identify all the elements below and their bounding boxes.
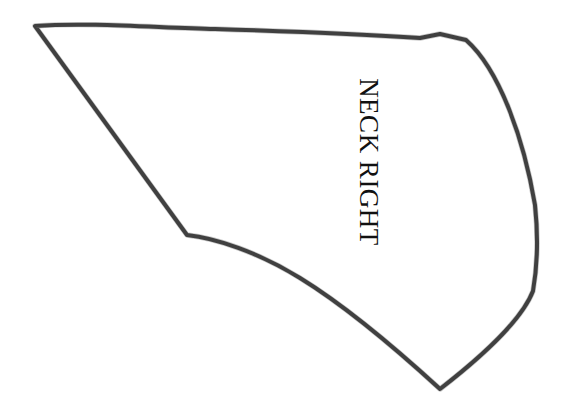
- pattern-page: NECK RIGHT: [0, 0, 569, 420]
- pattern-piece-drawing: [0, 0, 569, 420]
